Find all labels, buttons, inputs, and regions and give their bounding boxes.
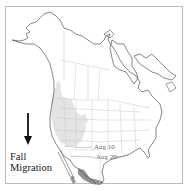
baffin-island: [134, 54, 176, 80]
isochrone-aug10: [64, 146, 92, 148]
legend-subtitle: Migration: [10, 163, 52, 174]
isochrone-label-aug10: Aug 10: [94, 144, 115, 151]
isochrone-aug20: [70, 156, 96, 158]
baja-peninsula: [58, 150, 74, 178]
arrow-down-icon: [24, 113, 32, 145]
isochrone-label-aug20: Aug 20: [96, 154, 117, 161]
coastline: [12, 12, 162, 184]
arctic-island-2: [166, 82, 176, 92]
hudson-bay: [110, 40, 138, 84]
legend-title: Fall: [10, 152, 26, 163]
